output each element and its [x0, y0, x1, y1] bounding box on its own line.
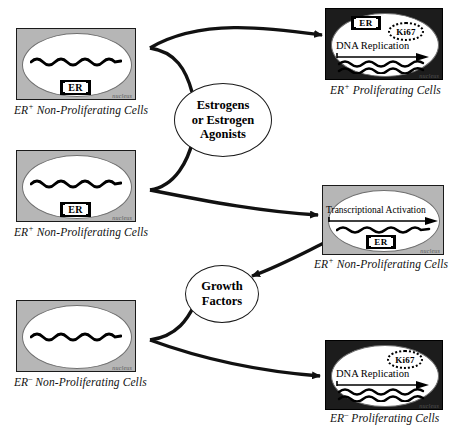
nucleus-label: nucleus	[419, 73, 439, 79]
arrow-midcell-to-estrogens	[150, 140, 193, 190]
chromatin-strand-icon	[30, 177, 122, 189]
nucleus-label: nucleus	[419, 403, 439, 409]
chromatin-strand-icon	[336, 223, 432, 235]
hub-growth-factors-line2: Factors	[201, 294, 242, 309]
er-marker: ER	[60, 202, 91, 217]
ki67-marker: Ki67	[387, 350, 423, 369]
nucleus-label: nucleus	[112, 93, 132, 99]
er-marker: ER	[351, 16, 381, 30]
replicated-chromatin-icon	[337, 56, 429, 74]
nucleus-label: nucleus	[112, 365, 132, 371]
arrow-bottomcell-to-growthfactors	[150, 304, 195, 340]
er-marker: ER	[60, 80, 91, 95]
hub-estrogens-line2: or Estrogen	[192, 113, 254, 128]
replicated-chromatin-icon	[337, 384, 429, 402]
hub-growth-factors-line1: Growth	[201, 279, 242, 294]
transcriptional-activation-label: Transcriptional Activation	[326, 205, 426, 215]
ki67-marker: Ki67	[388, 22, 424, 41]
arrow-topcell-to-estrogens	[150, 48, 192, 92]
cell-er-pos-nonprolif-top: ER nucleus	[16, 28, 136, 100]
dna-replication-label: DNA Replication	[336, 40, 409, 51]
dna-replication-label: DNA Replication	[336, 368, 409, 379]
cell-er-neg-nonprolif-bottom: nucleus	[16, 300, 136, 372]
arrow-estrogens-to-erpos-prolif	[150, 28, 322, 48]
hub-estrogens-line1: Estrogens	[192, 98, 254, 113]
er-marker: ER	[366, 235, 396, 249]
cell-er-neg-proliferating: Ki67 DNA Replication nucleus	[325, 340, 443, 410]
cell-transcriptional-activation: Transcriptional Activation ER nucleus	[322, 185, 444, 255]
cell-er-pos-nonprolif-mid: ER nucleus	[16, 150, 136, 222]
pathway-diagram: ER nucleus ER+ Non-Proliferating Cells E…	[0, 0, 455, 426]
chromatin-strand-icon	[30, 330, 122, 342]
arrow-growthfactors-to-erneg-prolif	[150, 340, 320, 376]
nucleus-label: nucleus	[112, 215, 132, 221]
hub-growth-factors: Growth Factors	[185, 265, 259, 323]
cell-er-pos-proliferating: ER Ki67 DNA Replication nucleus	[325, 8, 443, 80]
hub-estrogens-line3: Agonists	[192, 127, 254, 142]
nucleus-label: nucleus	[420, 248, 440, 254]
chromatin-strand-icon	[30, 55, 122, 67]
hub-estrogens: Estrogens or Estrogen Agonists	[174, 83, 272, 157]
arrow-estrogens-to-transcription	[150, 190, 318, 215]
arrow-transcription-to-growthfactors	[252, 240, 330, 276]
